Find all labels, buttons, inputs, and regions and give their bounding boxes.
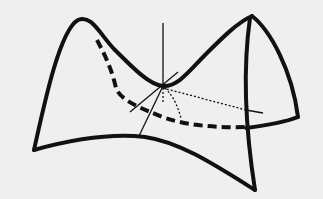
background <box>0 0 323 199</box>
diagram-canvas <box>0 0 323 199</box>
saddle-surface-diagram <box>0 0 323 199</box>
saddle-point <box>161 84 165 88</box>
